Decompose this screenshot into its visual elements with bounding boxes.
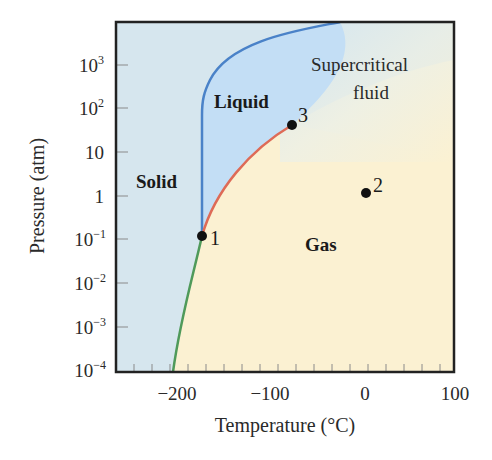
gas-label: Gas bbox=[305, 234, 337, 255]
supercritical-label-line1: Supercritical bbox=[311, 54, 408, 75]
svg-text:102: 102 bbox=[79, 96, 104, 119]
svg-text:1: 1 bbox=[95, 186, 105, 207]
svg-text:103: 103 bbox=[79, 53, 104, 76]
liquid-label: Liquid bbox=[214, 91, 269, 112]
triple-point-marker bbox=[197, 231, 207, 241]
point-3-label: 3 bbox=[298, 104, 308, 126]
point-2-marker bbox=[361, 188, 371, 198]
x-axis-title: Temperature (°C) bbox=[215, 414, 355, 437]
svg-text:10: 10 bbox=[85, 142, 104, 163]
svg-text:0: 0 bbox=[360, 383, 370, 404]
phase-diagram: 1 3 2 Solid Liquid Gas Supercritical flu… bbox=[0, 0, 492, 460]
point-1-label: 1 bbox=[210, 227, 220, 249]
solid-label: Solid bbox=[136, 171, 178, 192]
critical-point-marker bbox=[287, 120, 297, 130]
x-tick-labels: −200 −100 0 100 bbox=[157, 383, 469, 404]
svg-text:100: 100 bbox=[441, 383, 470, 404]
svg-text:10−1: 10−1 bbox=[74, 227, 106, 250]
svg-text:10−3: 10−3 bbox=[74, 315, 106, 338]
svg-text:10−4: 10−4 bbox=[74, 358, 106, 381]
supercritical-label-line2: fluid bbox=[353, 82, 389, 103]
svg-text:−200: −200 bbox=[157, 383, 196, 404]
svg-text:10−2: 10−2 bbox=[74, 271, 106, 294]
point-2-label: 2 bbox=[373, 174, 383, 196]
y-tick-labels: 103 102 10 1 10−1 10−2 10−3 10−4 bbox=[74, 53, 106, 381]
y-axis-title: Pressure (atm) bbox=[26, 138, 49, 254]
svg-text:−100: −100 bbox=[250, 383, 289, 404]
